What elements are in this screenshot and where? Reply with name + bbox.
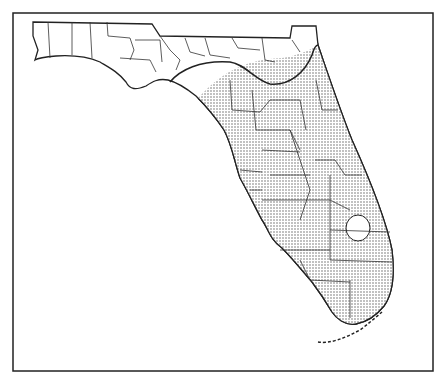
lake-okeechobee: [346, 215, 370, 241]
florida-county-map: [0, 0, 444, 381]
